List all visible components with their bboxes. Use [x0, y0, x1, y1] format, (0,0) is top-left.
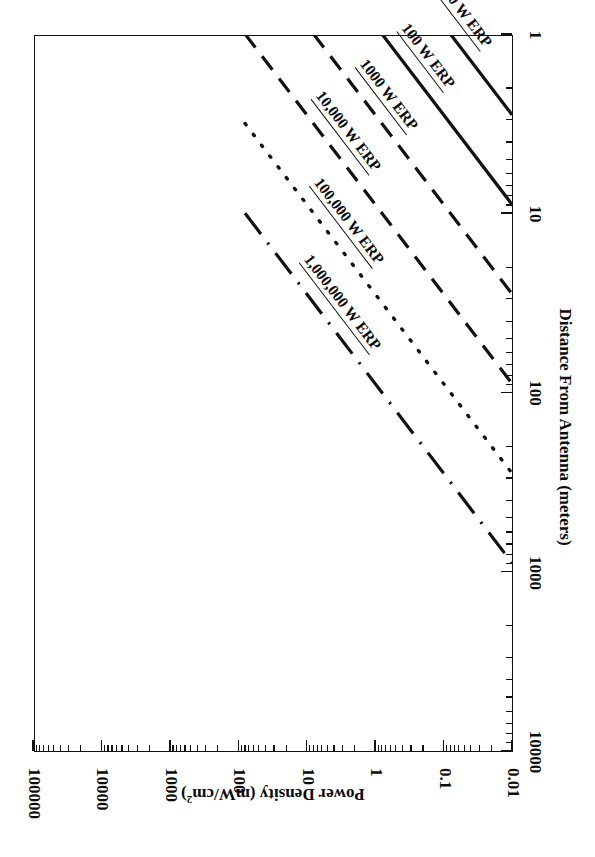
- curve-label: 1000 W ERP: [354, 55, 421, 134]
- power-density-tick-label: 1000: [162, 768, 179, 802]
- power-density-tick-label: 10000: [94, 768, 111, 811]
- power-density-tick-label: 100: [231, 768, 248, 794]
- power-density-tick-label: 1: [368, 768, 385, 777]
- curve-label: 10,000 W ERP: [310, 87, 384, 176]
- curve-label: 100,000 W ERP: [308, 174, 387, 269]
- rotated-figure-container: Power Density (mW/cm2) Distance From Ant…: [0, 0, 595, 857]
- power-density-tick-label: 100000: [26, 768, 43, 819]
- label-layer: 1000001000010001001010.10.01110100100010…: [0, 0, 595, 857]
- power-density-tick-label: 10: [299, 768, 316, 785]
- distance-tick-label: 10: [527, 206, 544, 223]
- power-density-tick-label: 0.1: [436, 768, 453, 789]
- distance-tick-label: 100: [527, 381, 544, 407]
- curve-label: 10 W ERP: [438, 0, 496, 52]
- distance-tick-label: 1000: [527, 556, 544, 590]
- distance-tick-label: 1: [527, 31, 544, 40]
- chart-figure: Power Density (mW/cm2) Distance From Ant…: [0, 0, 595, 857]
- curve-label: 100 W ERP: [396, 20, 459, 93]
- power-density-tick-label: 0.01: [505, 768, 522, 798]
- distance-tick-label: 10000: [527, 731, 544, 774]
